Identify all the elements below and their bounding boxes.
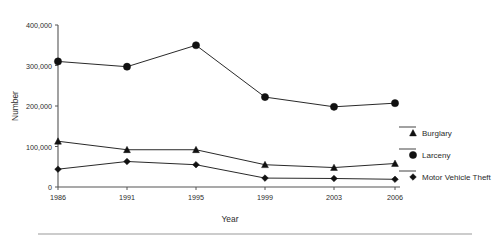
- data-point: [330, 103, 337, 110]
- y-tick-label: 400,000: [26, 21, 52, 30]
- y-tick-label: 300,000: [26, 62, 52, 71]
- x-axis-title: Year: [222, 214, 239, 224]
- x-tick-label: 1995: [188, 193, 204, 202]
- x-tick-label: 1999: [257, 193, 273, 202]
- data-point: [261, 93, 268, 100]
- legend-marker-circle-icon: [409, 151, 416, 158]
- y-tick-label: 200,000: [26, 102, 52, 111]
- data-point: [192, 42, 199, 49]
- y-axis-title: Number: [10, 91, 20, 121]
- legend-label: Motor Vehicle Theft: [422, 173, 492, 182]
- x-tick-label: 1991: [119, 193, 135, 202]
- y-tick-label: 100,000: [26, 143, 52, 152]
- x-tick-label: 2006: [387, 193, 403, 202]
- data-point: [391, 100, 398, 107]
- legend-label: Larceny: [422, 151, 450, 160]
- chart-figure: 400,000 300,000 200,000 100,000 0: [0, 0, 495, 243]
- x-tick-label: 1986: [50, 193, 66, 202]
- legend-label: Burglary: [422, 129, 452, 138]
- x-tick-label: 2003: [326, 193, 342, 202]
- line-chart-canvas: 400,000 300,000 200,000 100,000 0: [0, 0, 495, 243]
- data-point: [123, 63, 130, 70]
- chart-background: [0, 0, 495, 243]
- y-tick-label: 0: [48, 183, 52, 192]
- data-point: [54, 58, 61, 65]
